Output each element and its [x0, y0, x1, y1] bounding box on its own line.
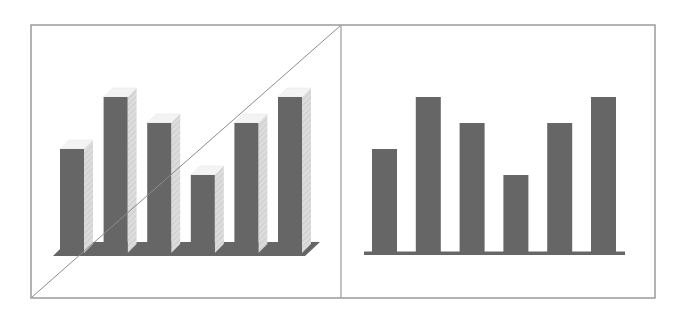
bar-3d	[60, 140, 93, 253]
bar-side-face	[128, 88, 137, 253]
bar-3d	[147, 114, 180, 253]
bar-2d	[547, 123, 572, 253]
bar-front-face	[60, 149, 84, 253]
bar-front-face	[147, 123, 171, 253]
bar-side-face	[258, 114, 267, 253]
bar-side-face	[302, 88, 311, 253]
bar-2d	[591, 97, 616, 253]
bar-2d	[416, 97, 441, 253]
bar-front-face	[104, 97, 128, 253]
bar-side-face	[171, 114, 180, 253]
figure	[0, 0, 685, 313]
bar-side-face	[84, 140, 93, 253]
bar-front-face	[278, 97, 302, 253]
bar-front-face	[191, 175, 215, 253]
bar-3d	[278, 88, 311, 253]
bar-3d	[104, 88, 137, 253]
bar-3d	[191, 166, 224, 253]
bar-side-face	[215, 166, 224, 253]
bar-2d	[503, 175, 528, 253]
bar-2d	[460, 123, 485, 253]
bar-front-face	[234, 123, 258, 253]
chart-baseline	[364, 252, 625, 256]
bar-2d	[372, 149, 397, 253]
bar-3d	[234, 114, 267, 253]
chart-comparison-figure	[0, 0, 685, 313]
